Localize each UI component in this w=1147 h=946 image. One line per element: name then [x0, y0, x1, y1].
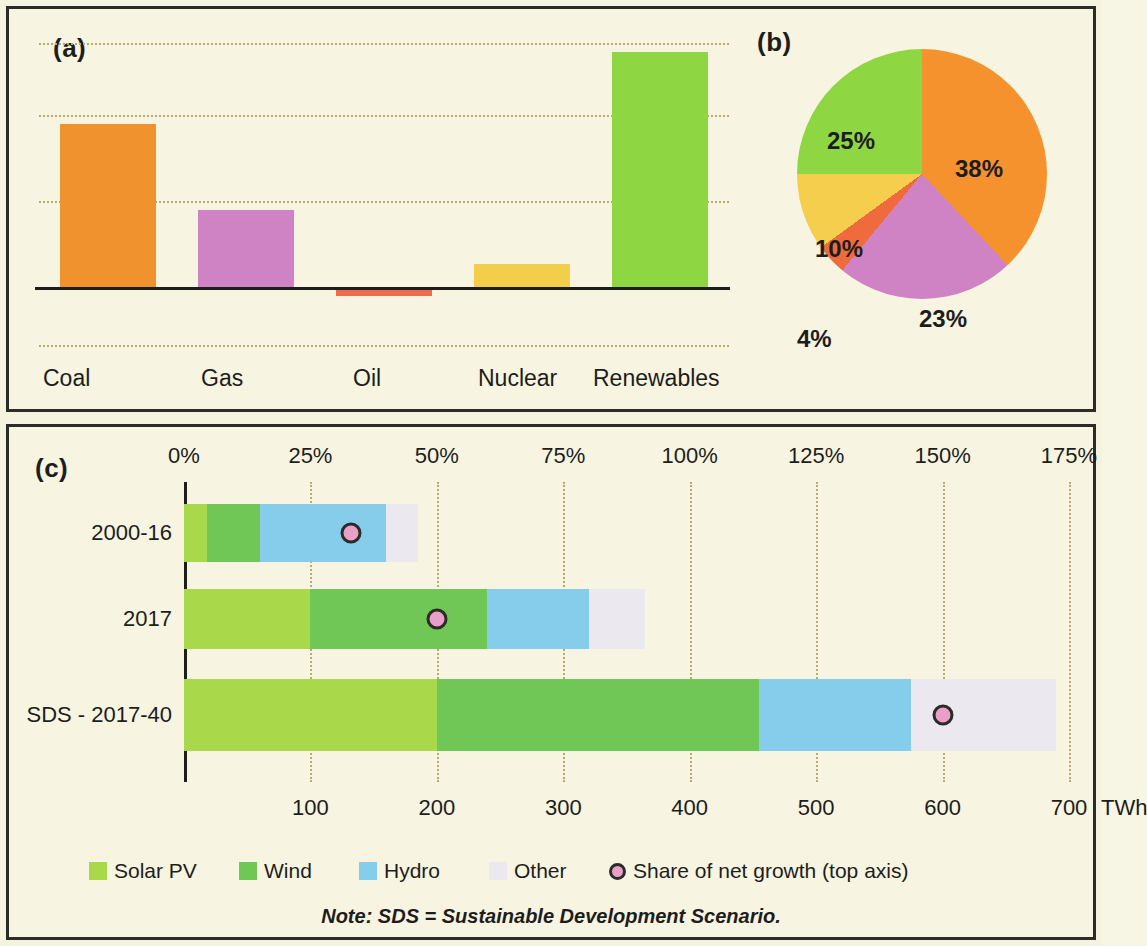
figure-note: Note: SDS = Sustainable Development Scen… — [9, 905, 1093, 928]
chart-a-category-label: Nuclear — [478, 365, 557, 392]
chart-c-row-label: 2000-16 — [91, 520, 172, 546]
chart-c-legend-label: Hydro — [384, 859, 440, 883]
chart-c-bar-segment — [386, 504, 418, 562]
chart-c-share-marker — [426, 609, 447, 630]
chart-c-gridline — [1069, 482, 1071, 782]
chart-c-unit-label: TWh — [1101, 795, 1147, 821]
chart-a-plot — [39, 29, 729, 359]
chart-a-zero-line — [35, 287, 730, 290]
chart-c-top-tick-label: 0% — [168, 443, 200, 469]
pie-slice-label: 25% — [827, 127, 875, 155]
chart-c-legend-item: Hydro — [359, 859, 440, 883]
chart-c-bottom-tick-label: 600 — [924, 795, 961, 821]
chart-c-legend-label: Other — [514, 859, 567, 883]
chart-c-bar-segment — [184, 679, 437, 751]
chart-c-bottom-tick-label: 200 — [418, 795, 455, 821]
chart-c-bar-segment — [310, 589, 487, 649]
pie-slice-label: 4% — [797, 325, 832, 353]
chart-c-row-label: SDS - 2017-40 — [26, 702, 172, 728]
chart-c-top-tick-label: 50% — [415, 443, 459, 469]
chart-c-bar-segment — [589, 589, 646, 649]
panel-b-tag: (b) — [757, 27, 792, 58]
chart-c-top-tick-label: 125% — [788, 443, 844, 469]
chart-a-category-label: Coal — [43, 365, 90, 392]
chart-c-bottom-tick-label: 400 — [671, 795, 708, 821]
legend-swatch-icon — [489, 862, 507, 880]
chart-b-pie: (b) 38%23%4%10%25% — [749, 13, 1093, 409]
chart-c-bar-segment — [184, 589, 310, 649]
chart-c-bar-segment — [184, 504, 207, 562]
chart-c-bar-row — [184, 504, 1069, 562]
chart-a-bar — [60, 124, 156, 288]
chart-a-bar — [198, 210, 294, 287]
chart-c-bottom-tick-label: 500 — [798, 795, 835, 821]
chart-c-top-tick-label: 25% — [288, 443, 332, 469]
chart-c-legend-item: Solar PV — [89, 859, 197, 883]
chart-c-top-tick-label: 150% — [914, 443, 970, 469]
legend-swatch-icon — [359, 862, 377, 880]
pie-slice-label: 23% — [919, 305, 967, 333]
chart-c-legend-item: Other — [489, 859, 567, 883]
chart-c-stacked-bar: (c) 0%25%50%75%100%125%150%175% 10020030… — [9, 427, 1093, 937]
legend-swatch-icon — [89, 862, 107, 880]
chart-c-share-marker — [932, 705, 953, 726]
chart-c-top-tick-label: 75% — [541, 443, 585, 469]
chart-a-gridline — [39, 43, 729, 45]
chart-a-bar: (a) CoalGasOilNuclearRenewables — [23, 13, 733, 409]
chart-c-bar-segment — [207, 504, 260, 562]
legend-dot-icon — [609, 863, 626, 880]
chart-a-gridline — [39, 345, 729, 347]
panel-c-tag: (c) — [35, 453, 68, 484]
chart-c-bar-segment — [260, 504, 386, 562]
chart-c-bottom-tick-label: 700 — [1051, 795, 1088, 821]
chart-c-bottom-tick-label: 300 — [545, 795, 582, 821]
chart-c-legend-label: Share of net growth (top axis) — [633, 859, 908, 883]
chart-c-bottom-tick-label: 100 — [292, 795, 329, 821]
chart-c-legend-label: Solar PV — [114, 859, 197, 883]
chart-a-bar — [612, 52, 708, 287]
chart-c-bar-segment — [487, 589, 588, 649]
chart-a-category-labels: CoalGasOilNuclearRenewables — [23, 365, 733, 405]
pie-slice-label: 10% — [815, 235, 863, 263]
chart-a-category-label: Gas — [201, 365, 243, 392]
legend-swatch-icon — [239, 862, 257, 880]
chart-c-legend-label: Wind — [264, 859, 312, 883]
chart-a-category-label: Oil — [353, 365, 381, 392]
chart-c-bar-segment — [759, 679, 911, 751]
pie-slice-label: 38% — [955, 155, 1003, 183]
chart-c-top-tick-label: 175% — [1041, 443, 1097, 469]
panel-bottom: (c) 0%25%50%75%100%125%150%175% 10020030… — [6, 424, 1096, 940]
chart-c-share-marker — [340, 523, 361, 544]
chart-a-category-label: Renewables — [593, 365, 720, 392]
chart-a-bar — [474, 264, 570, 287]
chart-c-bar-segment — [437, 679, 759, 751]
chart-c-legend-item: Wind — [239, 859, 312, 883]
chart-c-legend: Solar PVWindHydroOtherShare of net growt… — [89, 859, 1079, 887]
chart-c-legend-item: Share of net growth (top axis) — [609, 859, 908, 883]
chart-c-row-label: 2017 — [123, 606, 172, 632]
panel-top: (a) CoalGasOilNuclearRenewables (b) 38%2… — [6, 6, 1096, 412]
chart-c-bar-row — [184, 589, 1069, 649]
chart-c-top-tick-label: 100% — [662, 443, 718, 469]
